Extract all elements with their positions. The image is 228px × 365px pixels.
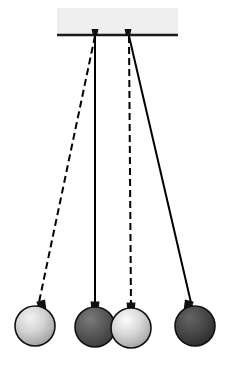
ceiling-support [57,8,178,35]
ball-right-displaced-sphere [175,306,215,346]
ceiling-bar [57,8,178,35]
pendulum-svg [0,0,228,365]
ball-right-rest-sphere [111,308,151,348]
ball-left-rest-sphere [75,307,115,347]
pendulum-diagram-canvas: Double pendulum collision diagram Two pe… [0,0,228,365]
ball-left-displaced-sphere [15,306,55,346]
